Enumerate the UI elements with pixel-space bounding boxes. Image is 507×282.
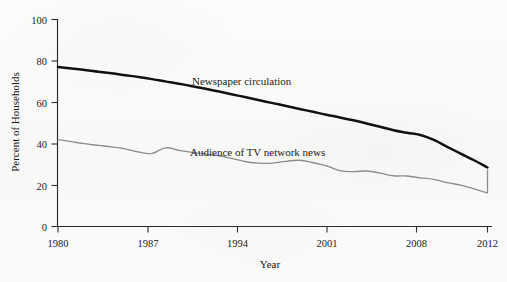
x-axis-title: Year <box>260 258 281 270</box>
y-tick-label-40: 40 <box>37 139 48 150</box>
chart-plot-area: 100 80 60 40 20 0 1980 1987 1994 2001 20… <box>0 0 507 282</box>
series-label-tv-audience: Audience of TV network news <box>190 146 325 158</box>
x-tick-label-1994: 1994 <box>227 238 249 249</box>
x-tick-label-2012: 2012 <box>477 238 498 249</box>
y-tick-label-0: 0 <box>42 222 47 233</box>
x-tick-label-2001: 2001 <box>317 238 338 249</box>
y-axis: 100 80 60 40 20 0 <box>31 15 57 233</box>
x-tick-label-1987: 1987 <box>138 238 159 249</box>
series-label-newspaper-circulation: Newspaper circulation <box>192 75 292 87</box>
y-tick-label-80: 80 <box>37 56 48 67</box>
y-tick-label-20: 20 <box>37 181 48 192</box>
x-axis: 1980 1987 1994 2001 2008 2012 <box>48 227 499 250</box>
x-tick-label-1980: 1980 <box>48 238 69 249</box>
y-tick-label-100: 100 <box>31 15 47 26</box>
line-chart-media-decline: 100 80 60 40 20 0 1980 1987 1994 2001 20… <box>0 0 507 282</box>
x-tick-label-2008: 2008 <box>406 238 427 249</box>
y-axis-title: Percent of Households <box>9 72 21 172</box>
y-tick-label-60: 60 <box>37 98 48 109</box>
